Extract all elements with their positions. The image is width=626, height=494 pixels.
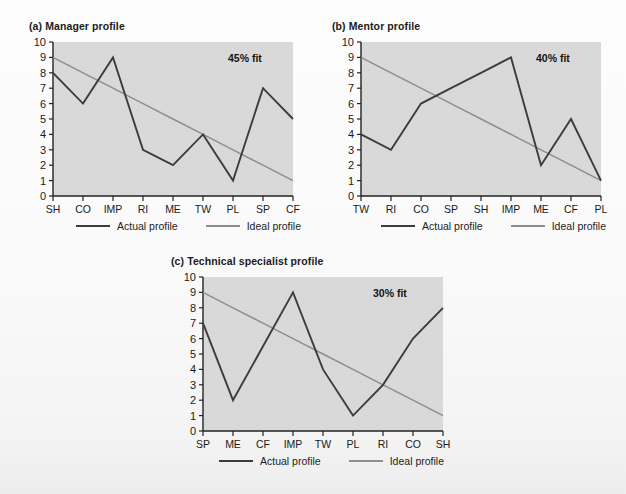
y-tick-label: 10 xyxy=(342,36,354,48)
x-tick-label: TW xyxy=(353,203,369,215)
legend-swatch-ideal-icon xyxy=(206,225,240,227)
y-tick-label: 1 xyxy=(348,175,354,187)
y-tick-label: 3 xyxy=(40,144,46,156)
x-tick-label: CF xyxy=(256,438,270,450)
y-tick-label: 0 xyxy=(348,190,354,202)
y-tick-label: 7 xyxy=(348,82,354,94)
legend-label-ideal: Ideal profile xyxy=(552,221,606,232)
legend-entry-actual: Actual profile xyxy=(219,456,321,467)
y-tick-label: 2 xyxy=(348,159,354,171)
chart-title-technical-specialist: (c) Technical specialist profile xyxy=(171,255,323,267)
y-tick-label: 3 xyxy=(348,144,354,156)
legend-manager: Actual profile Ideal profile xyxy=(76,221,301,232)
x-tick-label: CF xyxy=(286,203,300,215)
chart-panel-mentor: (b) Mentor profile 012345678910TWRICOSPS… xyxy=(313,0,626,250)
y-tick-label: 1 xyxy=(40,175,46,187)
x-tick-label: IMP xyxy=(502,203,521,215)
y-tick-label: 7 xyxy=(190,317,196,329)
y-tick-label: 5 xyxy=(40,113,46,125)
x-tick-label: CO xyxy=(413,203,429,215)
x-tick-label: TW xyxy=(315,438,331,450)
y-tick-label: 2 xyxy=(40,159,46,171)
y-tick-label: 10 xyxy=(34,36,46,48)
chart-panel-technical-specialist: (c) Technical specialist profile 0123456… xyxy=(155,252,485,494)
x-tick-label: SP xyxy=(256,203,270,215)
x-tick-label: PL xyxy=(347,438,360,450)
y-tick-label: 9 xyxy=(348,51,354,63)
y-tick-label: 0 xyxy=(40,190,46,202)
legend-entry-ideal: Ideal profile xyxy=(511,221,606,232)
y-tick-label: 5 xyxy=(348,113,354,125)
x-tick-label: RI xyxy=(378,438,389,450)
legend-entry-ideal: Ideal profile xyxy=(349,456,444,467)
x-tick-label: CF xyxy=(564,203,578,215)
legend-swatch-actual-icon xyxy=(381,225,415,227)
x-tick-label: ME xyxy=(533,203,549,215)
y-tick-label: 9 xyxy=(190,286,196,298)
y-tick-label: 6 xyxy=(348,98,354,110)
y-tick-label: 3 xyxy=(190,379,196,391)
y-tick-label: 4 xyxy=(40,128,46,140)
y-tick-label: 0 xyxy=(190,425,196,437)
legend-entry-actual: Actual profile xyxy=(381,221,483,232)
y-tick-label: 8 xyxy=(190,302,196,314)
x-tick-label: TW xyxy=(195,203,211,215)
y-tick-label: 10 xyxy=(184,271,196,283)
chart-title-mentor: (b) Mentor profile xyxy=(332,20,420,32)
x-tick-label: SH xyxy=(46,203,61,215)
y-tick-label: 4 xyxy=(190,363,196,375)
legend-label-actual: Actual profile xyxy=(260,456,321,467)
x-tick-label: ME xyxy=(225,438,241,450)
x-tick-label: IMP xyxy=(284,438,303,450)
fit-badge-mentor: 40% fit xyxy=(536,52,570,64)
x-tick-label: PL xyxy=(227,203,240,215)
y-tick-label: 8 xyxy=(348,67,354,79)
x-tick-label: RI xyxy=(386,203,397,215)
y-tick-label: 6 xyxy=(40,98,46,110)
chart-title-manager: (a) Manager profile xyxy=(29,20,125,32)
fit-badge-technical-specialist: 30% fit xyxy=(373,287,407,299)
x-tick-label: SH xyxy=(436,438,451,450)
x-tick-label: SH xyxy=(474,203,489,215)
y-tick-label: 1 xyxy=(190,410,196,422)
legend-swatch-actual-icon xyxy=(219,460,253,462)
legend-entry-actual: Actual profile xyxy=(76,221,178,232)
x-tick-label: CO xyxy=(75,203,91,215)
legend-mentor: Actual profile Ideal profile xyxy=(381,221,606,232)
figure-page: (a) Manager profile 012345678910SHCOIMPR… xyxy=(0,0,626,494)
legend-technical-specialist: Actual profile Ideal profile xyxy=(219,456,444,467)
plot-area-technical-specialist: 012345678910SPMECFIMPTWPLRICOSH xyxy=(155,271,455,451)
y-tick-label: 5 xyxy=(190,348,196,360)
y-tick-label: 7 xyxy=(40,82,46,94)
legend-swatch-actual-icon xyxy=(76,225,110,227)
legend-swatch-ideal-icon xyxy=(349,460,383,462)
y-tick-label: 8 xyxy=(40,67,46,79)
x-tick-label: ME xyxy=(165,203,181,215)
x-tick-label: SP xyxy=(196,438,210,450)
x-tick-label: IMP xyxy=(104,203,123,215)
x-tick-label: PL xyxy=(595,203,608,215)
y-tick-label: 9 xyxy=(40,51,46,63)
legend-entry-ideal: Ideal profile xyxy=(206,221,301,232)
x-tick-label: RI xyxy=(138,203,149,215)
legend-label-actual: Actual profile xyxy=(422,221,483,232)
legend-label-ideal: Ideal profile xyxy=(247,221,301,232)
legend-label-ideal: Ideal profile xyxy=(390,456,444,467)
x-tick-label: CO xyxy=(405,438,421,450)
x-tick-label: SP xyxy=(444,203,458,215)
legend-swatch-ideal-icon xyxy=(511,225,545,227)
fit-badge-manager: 45% fit xyxy=(228,52,262,64)
y-tick-label: 2 xyxy=(190,394,196,406)
y-tick-label: 4 xyxy=(348,128,354,140)
y-tick-label: 6 xyxy=(190,333,196,345)
chart-panel-manager: (a) Manager profile 012345678910SHCOIMPR… xyxy=(0,0,313,250)
legend-label-actual: Actual profile xyxy=(117,221,178,232)
